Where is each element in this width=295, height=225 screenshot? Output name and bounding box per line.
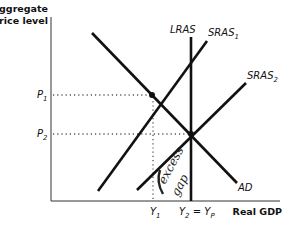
y-axis-label-line1: Aggregate	[0, 3, 48, 14]
ad-label: AD	[237, 182, 253, 193]
lras-label: LRAS	[170, 24, 196, 35]
p2-label: P2	[37, 128, 48, 142]
equilibrium-point-2	[188, 131, 194, 137]
x-axis-label: Real GDP	[233, 206, 282, 217]
as-ad-diagram: Aggregate price level Real GDP LRAS SRAS…	[0, 0, 295, 225]
sras1-label: SRAS1	[208, 27, 239, 41]
sras2-label: SRAS2	[247, 70, 278, 84]
equilibrium-point-1	[149, 92, 155, 98]
y2-yp-label: Y2 = YP	[179, 206, 215, 220]
y1-label: Y1	[150, 206, 161, 220]
y-axis-label-line2: price level	[0, 15, 48, 26]
p1-label: P1	[37, 89, 48, 103]
